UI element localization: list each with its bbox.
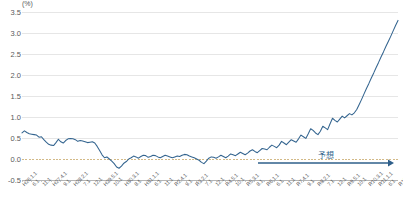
x-axis-tick-labels: H26.1.16.111.1H27.4.19.1H28.2.17.112.1H2…	[0, 0, 403, 222]
x-axis-tick-label: R12.4.1	[397, 170, 403, 187]
forecast-annotation-label: 予想	[318, 149, 334, 160]
chart-root: (%) 3.53.02.52.01.51.00.50.0-0.5 H26.1.1…	[0, 0, 403, 222]
